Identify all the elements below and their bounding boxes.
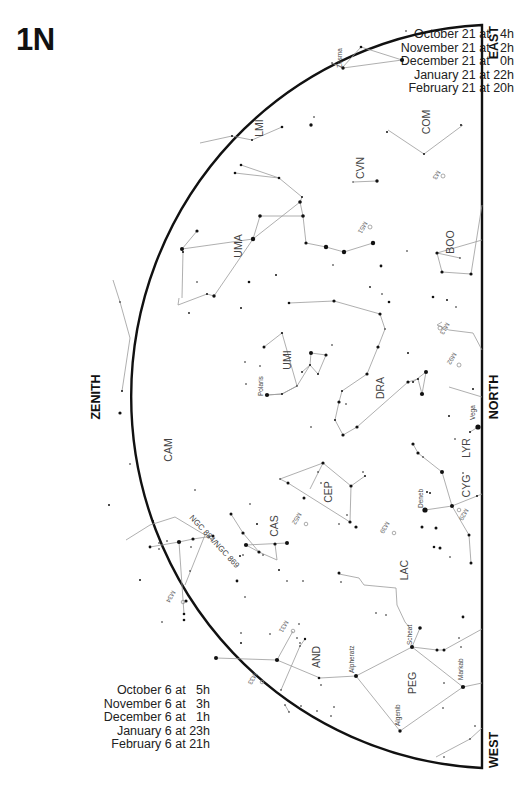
star	[420, 392, 424, 396]
star	[320, 684, 322, 686]
star	[324, 245, 328, 249]
star	[324, 353, 327, 356]
star	[331, 62, 333, 64]
star	[279, 478, 281, 480]
star	[194, 489, 196, 491]
star	[460, 646, 462, 648]
dso-label-m33: M33	[247, 672, 260, 687]
dso-marker-m39	[392, 531, 396, 535]
constellation-line	[178, 294, 214, 305]
star	[244, 543, 248, 547]
star	[448, 415, 450, 417]
star-name-deneb: Deneb	[417, 488, 424, 508]
star	[296, 385, 298, 387]
star	[454, 438, 456, 440]
dso-label-m13: M13	[439, 322, 452, 337]
star	[426, 491, 428, 493]
sky-chart: EAST NORTH WEST ZENITH LMI COM CVN UMA B…	[0, 0, 528, 793]
constellation-label-cam: CAM	[162, 438, 174, 461]
star	[341, 390, 343, 392]
star	[369, 286, 371, 288]
star	[432, 296, 435, 299]
star	[330, 715, 332, 717]
star	[240, 642, 242, 644]
star	[180, 247, 184, 251]
constellation-label-com: COM	[420, 110, 432, 135]
star	[411, 442, 414, 445]
star	[439, 547, 442, 550]
star	[234, 172, 237, 175]
constellation-line	[182, 231, 197, 298]
constellation-line	[339, 574, 410, 628]
constellation-label-lyr: LYR	[460, 438, 472, 458]
dso-label-ngc884-ngc869: NGC 884/NGC 869	[188, 513, 242, 570]
star	[195, 229, 198, 232]
star	[421, 526, 424, 529]
star	[462, 616, 465, 619]
star	[304, 241, 307, 244]
star	[286, 580, 288, 582]
star	[334, 419, 336, 421]
star	[341, 433, 344, 436]
constellation-label-umi: UMI	[281, 350, 293, 369]
star	[450, 504, 454, 508]
star	[375, 612, 377, 614]
star	[214, 656, 218, 660]
star	[449, 556, 451, 558]
star	[469, 431, 471, 433]
star	[365, 372, 368, 375]
constellation-label-lac: LAC	[398, 559, 410, 580]
star	[190, 546, 192, 548]
horizon-boundary	[131, 25, 482, 768]
star	[407, 352, 409, 354]
star	[355, 425, 358, 428]
star	[296, 637, 298, 639]
dso-marker-m29	[457, 508, 461, 512]
star	[281, 393, 283, 395]
star	[371, 241, 375, 245]
star	[446, 299, 448, 301]
star	[236, 580, 239, 583]
star	[316, 710, 318, 712]
star	[303, 497, 306, 500]
star	[337, 400, 340, 403]
star	[262, 554, 264, 556]
star	[244, 361, 246, 363]
star	[240, 307, 242, 309]
star	[191, 537, 194, 540]
star	[423, 153, 425, 155]
constellation-label-dra: DRA	[374, 377, 386, 399]
constellation-line	[120, 302, 130, 391]
star	[346, 514, 348, 516]
star	[230, 513, 233, 516]
star	[468, 534, 471, 537]
star	[469, 272, 472, 275]
star	[398, 729, 401, 732]
star	[259, 365, 261, 367]
star	[149, 546, 152, 549]
constellation-line	[310, 353, 326, 374]
star	[139, 579, 141, 581]
constellation-line	[412, 647, 463, 687]
star	[458, 637, 460, 639]
star	[443, 756, 445, 758]
star	[417, 50, 419, 52]
star	[416, 451, 419, 454]
star	[317, 373, 319, 375]
star	[435, 527, 438, 530]
star	[475, 424, 480, 429]
star	[302, 580, 304, 582]
star	[239, 555, 241, 557]
dso-label-m29: M29	[458, 508, 471, 523]
dso-label-m52: M52	[291, 512, 304, 527]
star	[158, 542, 160, 544]
direction-west: WEST	[487, 732, 501, 768]
star	[121, 390, 123, 392]
star	[275, 658, 279, 662]
star	[309, 351, 313, 355]
star	[386, 131, 388, 133]
direction-zenith: ZENITH	[89, 374, 103, 419]
star	[275, 274, 277, 276]
star	[429, 492, 431, 494]
star	[354, 525, 357, 528]
